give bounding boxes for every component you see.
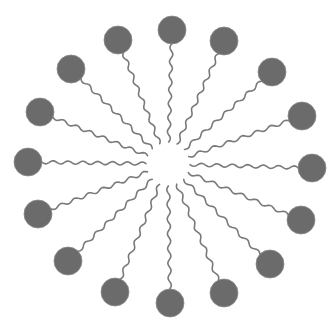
tail-6 bbox=[184, 179, 260, 254]
micelle-diagram bbox=[0, 0, 332, 334]
tail-14 bbox=[81, 79, 152, 149]
head-7 bbox=[210, 279, 238, 307]
head-5 bbox=[287, 206, 315, 234]
tail-2 bbox=[184, 81, 261, 149]
tail-10 bbox=[78, 179, 152, 251]
hydrophobic-tails bbox=[42, 44, 298, 289]
head-15 bbox=[104, 26, 132, 54]
tail-8 bbox=[167, 186, 172, 289]
tail-9 bbox=[120, 184, 159, 279]
head-9 bbox=[101, 278, 129, 306]
tail-12 bbox=[42, 161, 146, 165]
tail-3 bbox=[189, 120, 289, 157]
head-8 bbox=[156, 289, 184, 317]
head-3 bbox=[288, 102, 316, 130]
head-2 bbox=[258, 58, 286, 86]
tail-0 bbox=[167, 44, 172, 142]
tail-15 bbox=[123, 53, 160, 144]
head-6 bbox=[256, 250, 284, 278]
head-0 bbox=[158, 16, 186, 44]
tail-7 bbox=[176, 184, 218, 280]
head-14 bbox=[57, 55, 85, 83]
head-1 bbox=[210, 27, 238, 55]
head-10 bbox=[54, 247, 82, 275]
head-13 bbox=[26, 98, 54, 126]
head-11 bbox=[24, 200, 52, 228]
tail-5 bbox=[188, 173, 288, 215]
tail-1 bbox=[177, 54, 218, 144]
head-12 bbox=[14, 148, 42, 176]
head-4 bbox=[298, 154, 326, 182]
tail-4 bbox=[190, 163, 298, 168]
tail-11 bbox=[51, 172, 147, 210]
tail-13 bbox=[53, 117, 148, 155]
